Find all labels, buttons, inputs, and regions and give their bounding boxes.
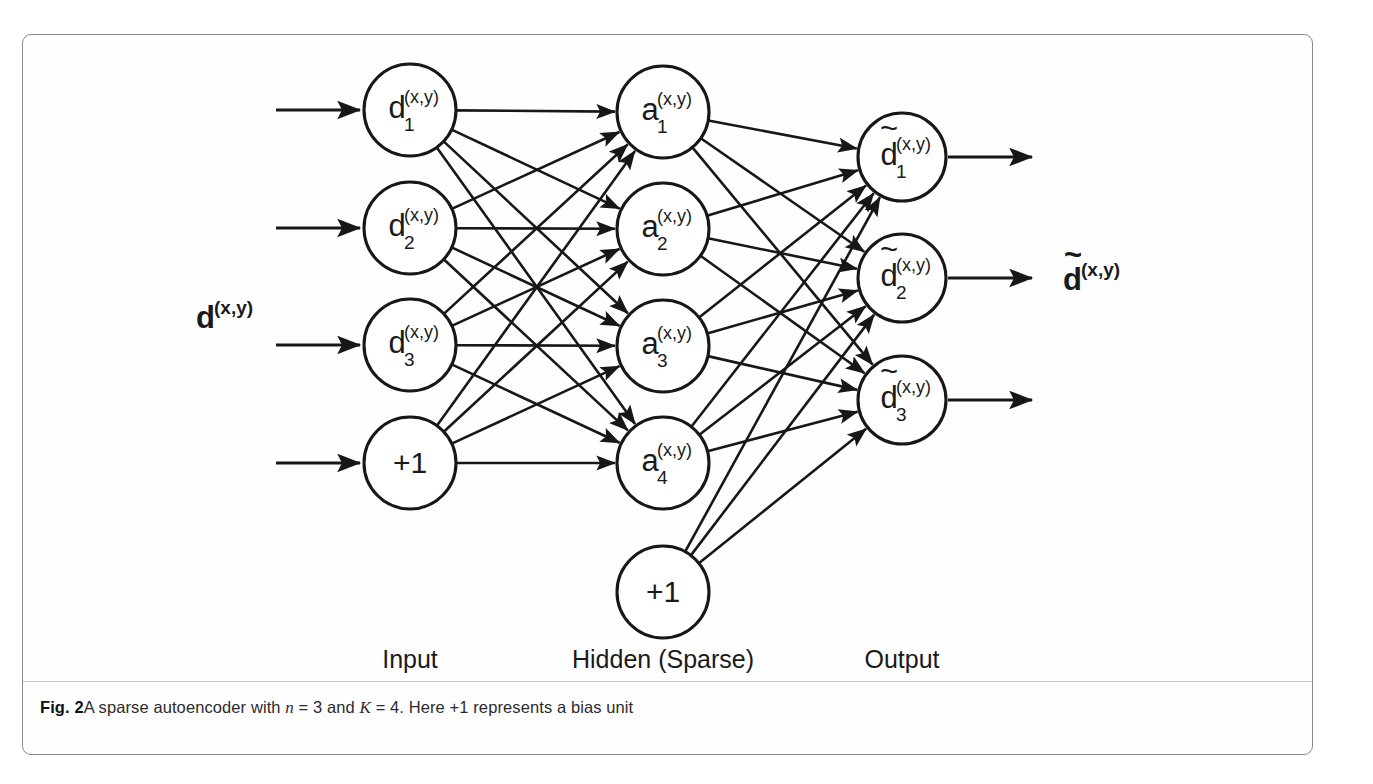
edge-a1-to-o3	[692, 147, 872, 364]
node-subscript-a3: 3	[657, 350, 668, 371]
node-subscript-o2: 2	[896, 282, 907, 303]
side-label-base-input: d	[196, 300, 215, 335]
node-d2: d2(x,y)	[364, 182, 456, 274]
node-superscript-a2: (x,y)	[657, 206, 692, 226]
figure-container: d1(x,y)d2(x,y)d3(x,y)+1a1(x,y)a2(x,y)a3(…	[0, 0, 1373, 784]
node-circle-d2	[364, 182, 456, 274]
node-a1: a1(x,y)	[617, 66, 709, 158]
edge-a1-to-o1	[708, 121, 857, 149]
node-subscript-a1: 1	[657, 116, 668, 137]
node-hid_bias: +1	[617, 546, 709, 638]
figure-caption-text-3: = 4. Here +1 represents a bias unit	[371, 698, 633, 716]
node-label-in_bias: +1	[393, 446, 427, 479]
node-subscript-a2: 2	[657, 233, 668, 254]
node-circle-o1	[858, 113, 946, 201]
layer-label-output: Output	[864, 645, 939, 673]
node-label-hid_bias: +1	[646, 575, 680, 608]
node-superscript-o3: (x,y)	[896, 377, 931, 397]
node-circle-a3	[617, 300, 709, 392]
node-subscript-d2: 2	[404, 232, 415, 253]
node-subscript-d1: 1	[404, 114, 415, 135]
node-circle-d1	[364, 64, 456, 156]
node-in_bias: +1	[364, 417, 456, 509]
edge-d1-to-a1	[456, 110, 615, 111]
figure-caption-math-k: K	[360, 698, 371, 717]
figure-caption: Fig. 2A sparse autoencoder with n = 3 an…	[40, 698, 1280, 718]
node-circle-o3	[858, 356, 946, 444]
side-label-superscript-output: (x,y)	[1081, 259, 1120, 280]
node-subscript-d3: 3	[404, 349, 415, 370]
node-circle-d3	[364, 299, 456, 391]
figure-caption-label: Fig. 2	[40, 698, 84, 716]
side-label-output: d~(x,y)	[1063, 237, 1120, 297]
layer-label-input: Input	[382, 645, 438, 673]
node-a2: a2(x,y)	[617, 183, 709, 275]
node-o1: d~1(x,y)	[858, 111, 946, 201]
side-label-tilde-output: ~	[1064, 237, 1082, 272]
node-subscript-o1: 1	[896, 161, 907, 182]
node-superscript-o1: (x,y)	[896, 134, 931, 154]
figure-caption-text-1: A sparse autoencoder with	[84, 698, 286, 716]
node-subscript-o3: 3	[896, 404, 907, 425]
edge-a2-to-o3	[700, 256, 864, 373]
edge-a4-to-o3	[707, 412, 857, 452]
node-superscript-d2: (x,y)	[404, 205, 439, 225]
node-circle-a2	[617, 183, 709, 275]
node-o3: d~3(x,y)	[858, 354, 946, 444]
edge-a4-to-o1	[691, 193, 873, 426]
node-circle-o2	[858, 234, 946, 322]
node-circle-a4	[617, 417, 709, 509]
node-superscript-d1: (x,y)	[404, 87, 439, 107]
node-o2: d~2(x,y)	[858, 232, 946, 322]
figure-caption-math-n: n	[285, 698, 294, 717]
node-d1: d1(x,y)	[364, 64, 456, 156]
layer-label-hidden-sparse: Hidden (Sparse)	[572, 645, 754, 673]
node-superscript-d3: (x,y)	[404, 322, 439, 342]
node-circle-a1	[617, 66, 709, 158]
edge-a3-to-o1	[699, 186, 866, 318]
node-superscript-a1: (x,y)	[657, 89, 692, 109]
node-subscript-a4: 4	[657, 467, 668, 488]
edge-hid_bias-to-o2	[691, 315, 874, 556]
side-label-input: d(x,y)	[196, 297, 253, 335]
side-label-superscript-input: (x,y)	[214, 297, 253, 318]
node-superscript-a3: (x,y)	[657, 323, 692, 343]
edge-hid_bias-to-o3	[699, 429, 866, 563]
node-a3: a3(x,y)	[617, 300, 709, 392]
node-superscript-a4: (x,y)	[657, 440, 692, 460]
node-superscript-o2: (x,y)	[896, 255, 931, 275]
node-a4: a4(x,y)	[617, 417, 709, 509]
network-diagram: d1(x,y)d2(x,y)d3(x,y)+1a1(x,y)a2(x,y)a3(…	[0, 0, 1373, 784]
node-d3: d3(x,y)	[364, 299, 456, 391]
figure-caption-text-2: = 3 and	[294, 698, 360, 716]
